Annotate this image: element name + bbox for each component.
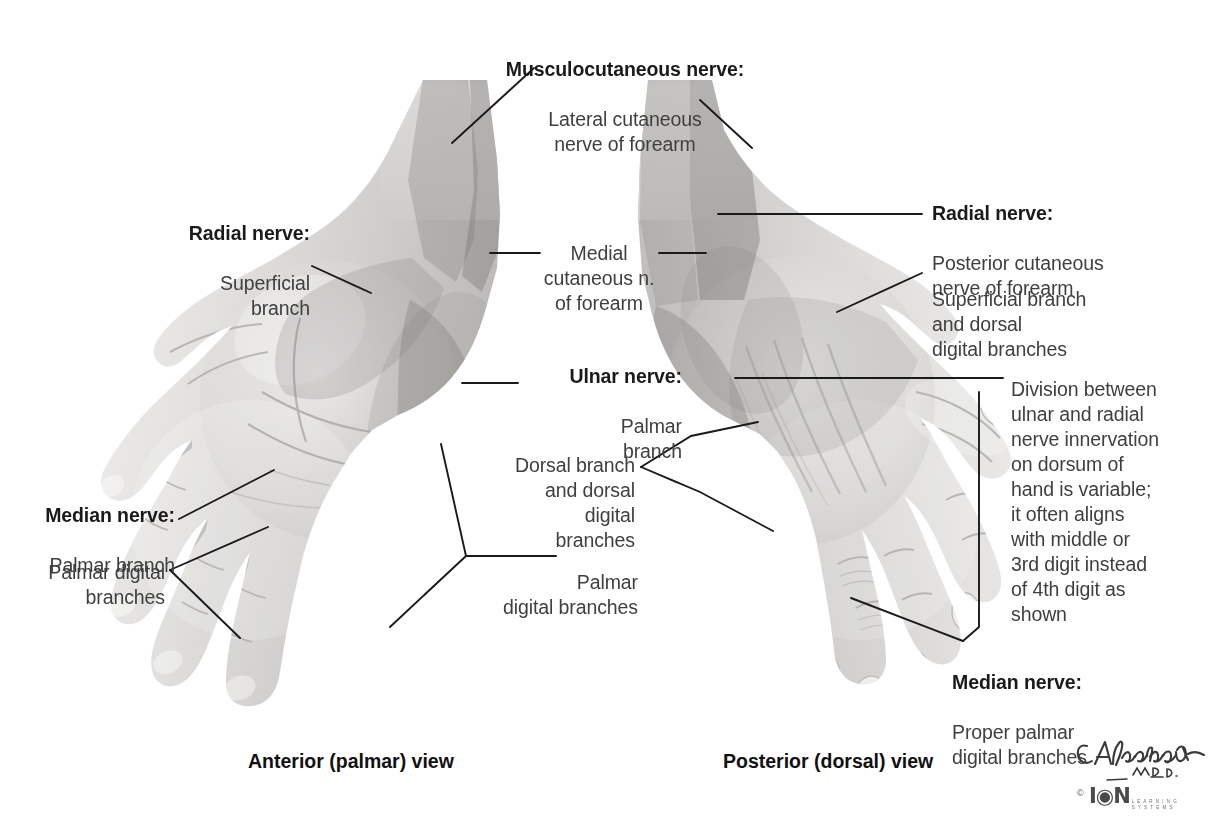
- caption-anterior-view: Anterior (palmar) view: [248, 750, 454, 773]
- label-musculocutaneous-body: Lateral cutaneous nerve of forearm: [475, 107, 775, 157]
- label-palmar-digital-left: Palmar digital branches: [0, 535, 165, 635]
- signature-icon: [1075, 734, 1207, 786]
- label-medial-cutaneous: Medial cutaneous n. of forearm: [528, 216, 670, 341]
- label-median-left-heading: Median nerve:: [0, 503, 175, 528]
- logo-mark-text: I◉N: [1089, 786, 1130, 807]
- anatomy-figure: Musculocutaneous nerve: Lateral cutaneou…: [0, 0, 1215, 831]
- label-division-note: Division between ulnar and radial nerve …: [1011, 352, 1215, 652]
- label-musculocutaneous: Musculocutaneous nerve: Lateral cutaneou…: [475, 32, 775, 182]
- label-radial-left-body: Superficial branch: [100, 271, 310, 321]
- logo-subtitle-line2: S Y S T E M S: [1132, 805, 1174, 810]
- label-median-right-heading: Median nerve:: [952, 670, 1202, 695]
- label-ulnar-heading: Ulnar nerve:: [540, 364, 682, 389]
- artist-credit: © I◉N L E A R N I N G S Y S T E M S: [1075, 734, 1207, 826]
- label-musculocutaneous-heading: Musculocutaneous nerve:: [475, 57, 775, 82]
- caption-posterior-view: Posterior (dorsal) view: [723, 750, 933, 773]
- label-palmar-digital-left-body: Palmar digital branches: [0, 560, 165, 610]
- logo-subtitle: L E A R N I N G S Y S T E M S: [1132, 799, 1178, 811]
- label-medial-cutaneous-body: Medial cutaneous n. of forearm: [528, 241, 670, 316]
- label-radial-superficial-right-body: Superficial branch and dorsal digital br…: [932, 287, 1192, 362]
- label-radial-left: Radial nerve: Superficial branch: [100, 196, 310, 346]
- label-palmar-digital-center-body: Palmar digital branches: [440, 570, 638, 620]
- leader-palmar-digital-center-fork: [441, 444, 466, 556]
- publisher-logo: I◉N L E A R N I N G S Y S T E M S: [1089, 786, 1178, 811]
- label-radial-right-heading: Radial nerve:: [932, 201, 1192, 226]
- logo-subtitle-line1: L E A R N I N G: [1132, 799, 1178, 804]
- label-palmar-digital-center: Palmar digital branches: [440, 545, 638, 645]
- label-ulnar-dorsal-body: Dorsal branch and dorsal digital branche…: [470, 453, 635, 553]
- label-radial-left-heading: Radial nerve:: [100, 221, 310, 246]
- copyright-symbol: ©: [1077, 788, 1084, 798]
- label-division-note-body: Division between ulnar and radial nerve …: [1011, 377, 1215, 627]
